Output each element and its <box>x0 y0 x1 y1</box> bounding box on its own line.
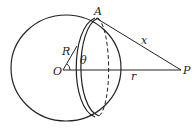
sphere-diagram: A x R θ O r P <box>0 0 196 128</box>
label-R: R <box>61 45 70 58</box>
label-x: x <box>141 34 148 47</box>
label-theta: θ <box>80 54 87 67</box>
label-P: P <box>182 64 191 77</box>
label-r: r <box>131 70 137 83</box>
label-A: A <box>93 5 102 18</box>
ring-outer-arc <box>76 18 95 117</box>
label-O: O <box>53 65 62 78</box>
angle-theta-arc <box>67 64 70 70</box>
ring-inner-arc <box>81 18 99 116</box>
